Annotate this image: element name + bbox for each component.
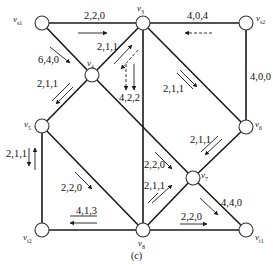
edge-label-v5-v8: 2,2,0: [61, 183, 82, 194]
edge-label-v4-v5: 2,1,1: [37, 79, 58, 90]
figure-caption: (c): [131, 250, 142, 261]
node-v4: [85, 68, 99, 82]
node-v6: [239, 120, 253, 134]
node-v5: [35, 119, 49, 133]
node-vt2: [35, 223, 49, 237]
node-vs1: [35, 16, 49, 30]
edge-label-v5-vt2: 2,1,1: [6, 149, 27, 160]
edge-label-v3-v8: 4,2,2: [119, 93, 140, 104]
edge-label-v7-vt1: 4,4,0: [221, 198, 242, 209]
arrow-down-left-icon: [56, 87, 73, 104]
node-v3: [136, 16, 150, 30]
node-v7: [186, 171, 200, 185]
edge-label-v4-v3: 2,1,1: [97, 42, 118, 53]
edge-label-vs1-v4: 6,4,0: [38, 55, 59, 66]
node-label-v5: v5: [24, 120, 31, 131]
node-vt1: [239, 223, 253, 237]
node-label-vs2: vs2: [256, 14, 265, 25]
edge-label-v3-v6: 2,1,1: [163, 84, 184, 95]
node-label-v7: v7: [201, 171, 208, 182]
node-v8: [136, 223, 150, 237]
node-label-v8: v8: [138, 239, 145, 250]
flow-network-diagram: [0, 0, 273, 265]
edge-label-v4-v7: 2,2,0: [144, 160, 165, 171]
node-label-v6: v6: [255, 120, 262, 131]
arrow-down-left-icon: [121, 50, 138, 69]
edge-label-v8-vt1: 2,2,0: [181, 212, 202, 223]
edge-label-vs1-v3: 2,2,0: [84, 11, 105, 22]
edge-label-v3-vs2: 4,0,4: [187, 11, 208, 22]
edge-v3-v6: [143, 23, 246, 127]
edge-label-v7-v8: 2,1,1: [144, 181, 165, 192]
edge-label-vs2-v6: 4,0,0: [250, 72, 271, 83]
edge-vs1-v4: [42, 23, 92, 75]
node-vs2: [239, 16, 253, 30]
node-label-v3: v3: [137, 4, 144, 15]
edge-label-v6-v7: 2,1,1: [190, 135, 211, 146]
node-label-vs1: vs1: [13, 15, 22, 26]
node-label-vt1: vt1: [255, 233, 264, 244]
node-label-vt2: vt2: [23, 233, 32, 244]
edge-label-v8-vt2: 4,1,3: [76, 206, 97, 217]
node-label-v4: v4: [87, 59, 94, 70]
